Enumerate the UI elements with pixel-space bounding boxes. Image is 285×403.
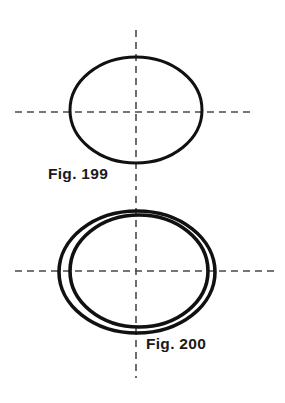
figure-200-group: [15, 196, 275, 378]
figure-sheet: Fig. 199 Fig. 200: [0, 0, 285, 403]
figure-199-caption: Fig. 199: [48, 166, 108, 182]
figure-200-caption: Fig. 200: [146, 336, 206, 352]
technical-drawing-canvas: [0, 0, 285, 403]
fig-200-outer-ellipse-outline: [59, 211, 215, 333]
